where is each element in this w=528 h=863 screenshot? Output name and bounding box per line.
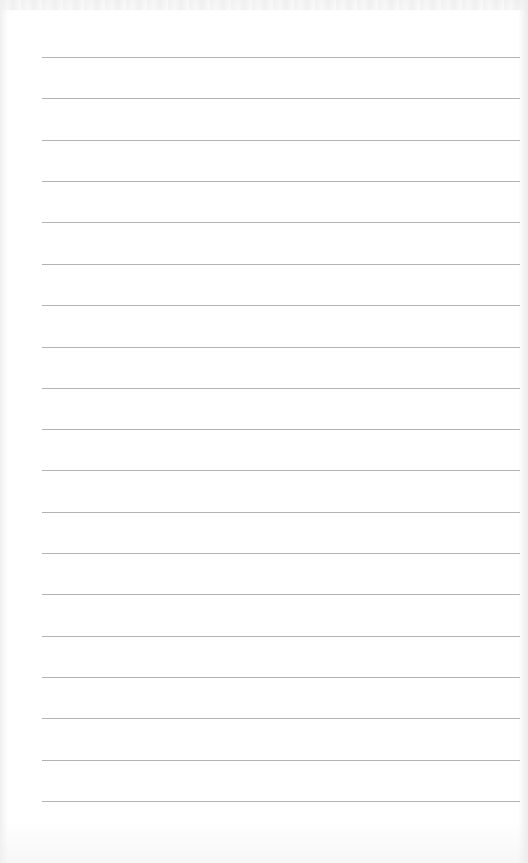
ruled-line bbox=[42, 718, 520, 719]
ruled-line bbox=[42, 305, 520, 306]
ruled-line bbox=[42, 677, 520, 678]
ruled-line bbox=[42, 57, 520, 58]
lined-paper bbox=[0, 0, 528, 863]
right-edge-shadow bbox=[518, 0, 528, 863]
ruled-line bbox=[42, 512, 520, 513]
ruled-line bbox=[42, 594, 520, 595]
ruled-line bbox=[42, 553, 520, 554]
ruled-line bbox=[42, 98, 520, 99]
ruled-line bbox=[42, 264, 520, 265]
ruled-line bbox=[42, 140, 520, 141]
ruled-line bbox=[42, 222, 520, 223]
ruled-line bbox=[42, 181, 520, 182]
ruled-line bbox=[42, 429, 520, 430]
ruled-line bbox=[42, 388, 520, 389]
ruled-line bbox=[42, 801, 520, 802]
ruled-line bbox=[42, 760, 520, 761]
torn-top-edge bbox=[0, 0, 528, 10]
ruled-line bbox=[42, 347, 520, 348]
ruled-line bbox=[42, 636, 520, 637]
ruled-line bbox=[42, 470, 520, 471]
left-edge-shadow bbox=[0, 0, 8, 863]
